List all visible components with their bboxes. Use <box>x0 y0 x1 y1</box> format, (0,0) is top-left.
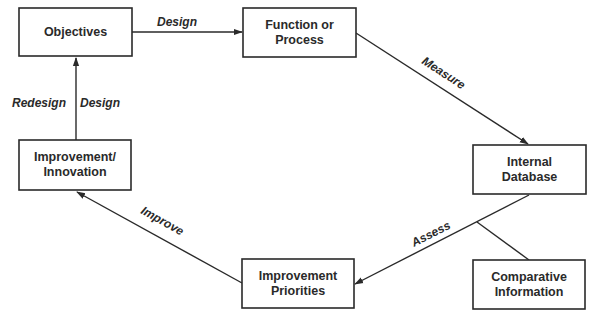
node-database-label-line1: Internal <box>507 155 552 169</box>
edge-label-redesign: Redesign <box>12 96 66 110</box>
node-objectives-label: Objectives <box>44 25 107 39</box>
process-cycle-diagram: Design Measure Assess Improve Redesign D… <box>0 0 599 319</box>
edge-label-measure: Measure <box>419 54 468 92</box>
edge-function-to-database <box>356 33 528 144</box>
edge-label-design-top: Design <box>157 15 197 29</box>
node-improvement-priorities: Improvement Priorities <box>242 259 354 308</box>
edge-priorities-to-innovation <box>77 192 242 283</box>
node-function-label-line1: Function or <box>265 18 334 32</box>
node-function-label-line2: Process <box>275 33 324 47</box>
node-comparative-label-line1: Comparative <box>491 270 567 284</box>
node-database-label-line2: Database <box>502 170 558 184</box>
node-objectives: Objectives <box>19 8 132 56</box>
node-function-or-process: Function or Process <box>243 8 356 57</box>
node-priorities-label-line2: Priorities <box>271 284 325 298</box>
node-internal-database: Internal Database <box>473 145 586 194</box>
node-innovation-label-line1: Improvement/ <box>34 150 116 164</box>
node-innovation-label-line2: Innovation <box>43 165 106 179</box>
edge-label-design-left: Design <box>80 96 120 110</box>
edge-comparative-branch <box>477 222 529 260</box>
edge-label-improve: Improve <box>139 203 187 238</box>
node-improvement-innovation: Improvement/ Innovation <box>19 140 131 190</box>
node-comparative-label-line2: Information <box>495 285 564 299</box>
node-priorities-label-line1: Improvement <box>259 269 338 283</box>
node-comparative-information: Comparative Information <box>473 260 585 309</box>
